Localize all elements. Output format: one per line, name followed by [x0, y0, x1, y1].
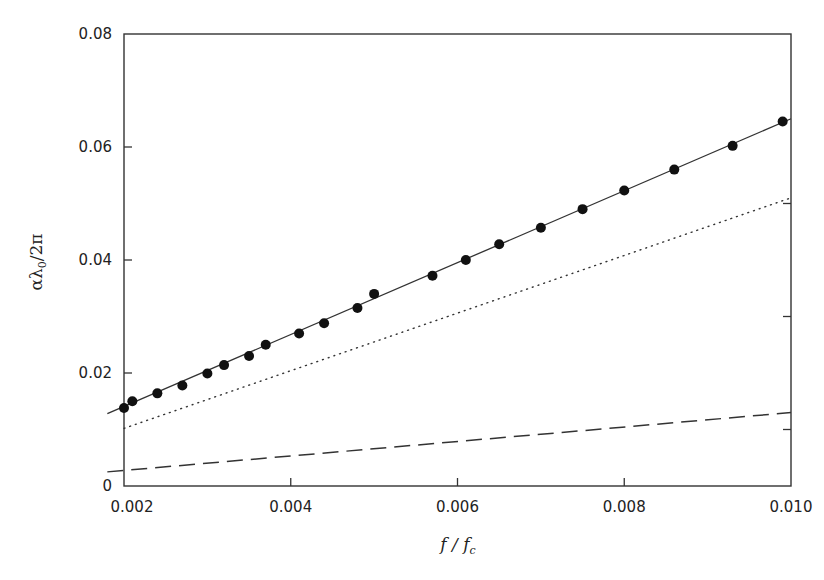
data-point: [536, 223, 546, 233]
plot-frame: [124, 34, 791, 486]
data-point: [669, 165, 679, 175]
dotted-line: [124, 198, 791, 429]
data-point: [294, 328, 304, 338]
data-point: [778, 117, 788, 127]
data-point: [261, 340, 271, 350]
data-point: [369, 289, 379, 299]
data-point: [219, 360, 229, 370]
dashed-line: [107, 413, 791, 472]
y-axis-title: αλ0/2π: [26, 234, 49, 291]
data-point: [352, 303, 362, 313]
series-lines: [107, 119, 791, 472]
data-point: [427, 271, 437, 281]
x-axis-ticks: 0.0020.0040.0060.0080.010: [111, 478, 813, 516]
data-point: [619, 186, 629, 196]
data-point: [244, 351, 254, 361]
data-point: [202, 369, 212, 379]
data-point: [152, 388, 162, 398]
x-tick-label: 0.004: [269, 498, 312, 516]
data-point: [461, 255, 471, 265]
y-tick-label: 0.06: [79, 138, 112, 156]
data-point: [319, 318, 329, 328]
x-axis-title: f / fc: [438, 534, 475, 557]
x-tick-label: 0.002: [111, 498, 154, 516]
data-point: [177, 380, 187, 390]
data-point: [127, 396, 137, 406]
x-tick-label: 0.010: [770, 498, 813, 516]
data-point: [119, 403, 129, 413]
y-tick-label: 0.04: [79, 251, 112, 269]
data-point: [578, 204, 588, 214]
y-tick-label: 0.08: [79, 25, 112, 43]
line-chart: 00.020.040.060.08 0.0020.0040.0060.0080.…: [0, 0, 824, 580]
plot-border: [124, 34, 791, 486]
x-tick-label: 0.008: [603, 498, 646, 516]
data-point: [494, 239, 504, 249]
y-tick-label: 0.02: [79, 364, 112, 382]
y-tick-label: 0: [102, 477, 112, 495]
data-point: [728, 141, 738, 151]
y-axis-ticks: 00.020.040.060.08: [79, 25, 791, 495]
x-tick-label: 0.006: [436, 498, 479, 516]
